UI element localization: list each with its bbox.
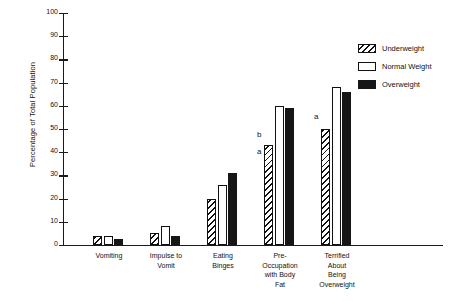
y-tick-label: 100 — [46, 8, 58, 15]
y-tick-mark — [59, 129, 68, 130]
bar-underweight[interactable] — [150, 233, 159, 245]
category-label: Impulse to Vomit — [136, 251, 196, 270]
bar-overweight[interactable] — [114, 239, 123, 245]
bar-overweight[interactable] — [342, 92, 351, 245]
legend-label: Overweight — [382, 80, 420, 89]
y-tick-mark — [59, 175, 68, 176]
bar-underweight[interactable] — [93, 236, 102, 245]
category-label: Eating Binges — [193, 251, 253, 270]
legend-swatch-normal-weight — [358, 62, 376, 71]
bar-group-bars — [321, 13, 351, 245]
bar-normal-weight[interactable] — [104, 236, 113, 245]
legend-label: Underweight — [382, 44, 424, 53]
legend-swatch-overweight — [358, 80, 376, 89]
significance-letter: b — [257, 131, 261, 139]
y-tick-label: 80 — [50, 54, 58, 61]
category-label: Pre- Occupation with Body Fat — [250, 251, 310, 289]
bar-group-bars — [93, 13, 123, 245]
y-tick-label: 0 — [54, 240, 58, 247]
y-tick-label: 10 — [50, 217, 58, 224]
bar-normal-weight[interactable] — [161, 226, 170, 245]
y-tick-mark — [59, 152, 68, 153]
bar-overweight[interactable] — [171, 236, 180, 245]
bar-normal-weight[interactable] — [332, 87, 341, 245]
legend-swatch-underweight — [358, 44, 376, 53]
significance-letter: a — [257, 148, 261, 156]
legend-item[interactable]: Overweight — [358, 80, 431, 89]
legend: UnderweightNormal WeightOverweight — [358, 44, 431, 89]
y-tick-label: 90 — [50, 31, 58, 38]
y-tick-mark — [59, 59, 68, 60]
y-tick-mark — [59, 13, 68, 14]
y-tick-label: 20 — [50, 194, 58, 201]
y-tick-label: 50 — [50, 124, 58, 131]
bar-underweight[interactable] — [207, 199, 216, 245]
bar-group-bars — [207, 13, 237, 245]
y-tick-mark — [59, 245, 68, 246]
y-tick-mark — [59, 106, 68, 107]
y-tick-mark — [59, 36, 68, 37]
legend-item[interactable]: Underweight — [358, 44, 431, 53]
bar-group-bars — [264, 13, 294, 245]
bar-underweight[interactable] — [321, 129, 330, 245]
legend-label: Normal Weight — [382, 62, 431, 71]
legend-item[interactable]: Normal Weight — [358, 62, 431, 71]
bar-underweight[interactable] — [264, 145, 273, 245]
bar-overweight[interactable] — [228, 173, 237, 245]
y-tick-label: 40 — [50, 147, 58, 154]
y-axis-title: Percentage of Total Population — [28, 25, 37, 205]
significance-letter: a — [314, 113, 318, 121]
bar-normal-weight[interactable] — [218, 185, 227, 245]
y-tick-mark — [59, 222, 68, 223]
bar-group-bars — [150, 13, 180, 245]
y-tick-label: 60 — [50, 101, 58, 108]
category-label: Terrified About Being Overweight — [307, 251, 367, 289]
x-axis-line — [63, 245, 443, 246]
bar-normal-weight[interactable] — [275, 106, 284, 245]
bar-overweight[interactable] — [285, 108, 294, 245]
y-tick-label: 70 — [50, 78, 58, 85]
y-tick-label: 30 — [50, 170, 58, 177]
category-label: Vomiting — [79, 251, 139, 261]
y-tick-mark — [59, 83, 68, 84]
chart-figure: Percentage of Total Population 100908070… — [0, 0, 453, 301]
y-tick-mark — [59, 199, 68, 200]
